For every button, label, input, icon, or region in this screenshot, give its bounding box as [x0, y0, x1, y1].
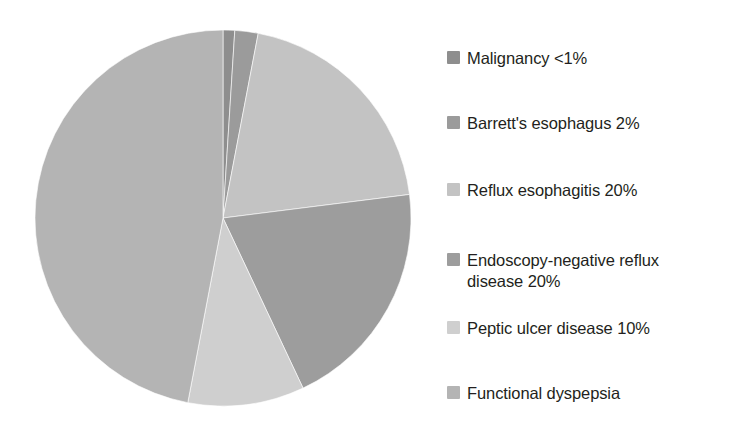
legend-label-barretts-esophagus: Barrett's esophagus 2% [467, 113, 639, 134]
legend-label-endoscopy-negative-reflux-disease: Endoscopy-negative reflux disease 20% [467, 250, 659, 292]
pie-slice-group [35, 30, 411, 406]
chart-legend: Malignancy <1% Barrett's esophagus 2% Re… [447, 28, 737, 408]
legend-swatch-icon-reflux-esophagitis [447, 183, 460, 196]
legend-item-endoscopy-negative-reflux-disease: Endoscopy-negative reflux disease 20% [447, 250, 737, 292]
legend-label-functional-dyspepsia: Functional dyspepsia [467, 383, 620, 404]
pie-chart [34, 28, 412, 410]
pie-slice [35, 30, 223, 403]
legend-swatch-icon-functional-dyspepsia [447, 386, 460, 399]
legend-swatch-icon-barretts-esophagus [447, 116, 460, 129]
pie-chart-svg [34, 28, 412, 410]
legend-label-malignancy: Malignancy <1% [467, 48, 587, 69]
legend-swatch-icon-endoscopy-negative-reflux-disease [447, 253, 460, 266]
pie-chart-figure: Malignancy <1% Barrett's esophagus 2% Re… [0, 0, 744, 421]
legend-item-reflux-esophagitis: Reflux esophagitis 20% [447, 180, 737, 201]
legend-item-peptic-ulcer-disease: Peptic ulcer disease 10% [447, 318, 737, 339]
legend-item-malignancy: Malignancy <1% [447, 48, 737, 69]
legend-swatch-icon-peptic-ulcer-disease [447, 321, 460, 334]
legend-label-reflux-esophagitis: Reflux esophagitis 20% [467, 180, 637, 201]
legend-label-peptic-ulcer-disease: Peptic ulcer disease 10% [467, 318, 650, 339]
legend-item-barretts-esophagus: Barrett's esophagus 2% [447, 113, 737, 134]
legend-swatch-icon-malignancy [447, 51, 460, 64]
legend-item-functional-dyspepsia: Functional dyspepsia [447, 383, 737, 404]
